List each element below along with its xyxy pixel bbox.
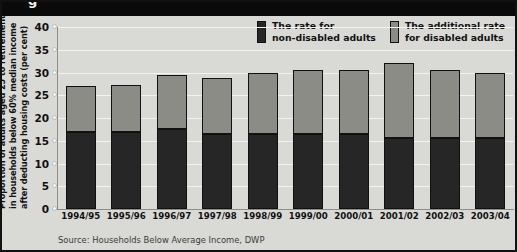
y-tick-label: 20 [34, 112, 49, 124]
bar-segment-non-disabled [66, 132, 96, 209]
y-tick-label: 15 [34, 135, 49, 147]
bar-segment-disabled [384, 63, 414, 138]
bar-1995-96 [111, 85, 141, 209]
y-tick-label: 35 [34, 44, 49, 56]
source-note: Source: Households Below Average Income,… [58, 235, 264, 245]
bar-segment-disabled [293, 70, 323, 134]
y-tick-dot [52, 70, 57, 75]
x-axis-line [52, 209, 514, 210]
x-tick-label: 1998/99 [240, 211, 286, 221]
bar-2003-04 [475, 73, 505, 210]
x-tick-label: 2000/01 [331, 211, 377, 221]
y-tick-label: 5 [42, 180, 49, 192]
y-axis-title-line-1: Proportion of adults aged 25 to retireme… [0, 15, 7, 209]
bar-2001-02 [384, 63, 414, 209]
bar-segment-disabled [339, 70, 369, 134]
bar-segment-non-disabled [384, 138, 414, 209]
y-tick-dot [52, 47, 57, 52]
bar-segment-non-disabled [202, 134, 232, 209]
y-tick-dot [52, 138, 57, 143]
x-tick-label: 2001/02 [377, 211, 423, 221]
x-tick-label: 2003/04 [468, 211, 514, 221]
top-black-band: g [2, 2, 515, 16]
bar-segment-disabled [475, 73, 505, 139]
y-axis-title-line-2: in households below 60% median income [8, 23, 18, 209]
cut-off-title: g [28, 2, 38, 8]
y-tick-label: 30 [34, 67, 49, 79]
x-tick-label: 1999/00 [286, 211, 332, 221]
bar-1998-99 [248, 73, 278, 210]
bar-segment-non-disabled [430, 138, 460, 209]
y-tick-dot [52, 115, 57, 120]
bar-segment-disabled [248, 73, 278, 134]
x-tick-label: 1995/96 [104, 211, 150, 221]
y-tick-dot [52, 24, 57, 29]
bar-segment-disabled [202, 78, 232, 134]
bar-1994-95 [66, 86, 96, 209]
bar-segment-non-disabled [293, 134, 323, 209]
bar-2000-01 [339, 70, 369, 209]
bar-segment-non-disabled [475, 138, 505, 209]
x-tick-label: 1997/98 [195, 211, 241, 221]
y-tick-dot [52, 161, 57, 166]
plot-area: 0510152025303540 1994/951995/961996/9719… [58, 27, 513, 209]
bar-1996-97 [157, 75, 187, 209]
bar-1999-00 [293, 70, 323, 209]
bar-segment-non-disabled [248, 134, 278, 209]
y-tick-label: 25 [34, 89, 49, 101]
bar-segment-non-disabled [339, 134, 369, 209]
gridline [58, 50, 513, 51]
bar-segment-disabled [430, 70, 460, 138]
y-tick-label: 10 [34, 158, 49, 170]
chart-figure: g Proportion of adults aged 25 to retire… [0, 0, 517, 252]
x-tick-label: 1996/97 [149, 211, 195, 221]
bar-1997-98 [202, 78, 232, 209]
y-tick-label: 0 [42, 203, 49, 215]
bar-segment-non-disabled [111, 132, 141, 209]
bar-segment-disabled [157, 75, 187, 130]
bar-segment-disabled [66, 86, 96, 132]
y-axis-title-line-3: after deducting housing costs (per cent) [19, 26, 29, 209]
bar-segment-non-disabled [157, 129, 187, 209]
y-tick-dot [52, 206, 57, 211]
x-tick-label: 1994/95 [58, 211, 104, 221]
bar-segment-disabled [111, 85, 141, 131]
x-tick-label: 2002/03 [422, 211, 468, 221]
bar-2002-03 [430, 70, 460, 209]
gridline [58, 27, 513, 28]
y-tick-label: 40 [34, 21, 49, 33]
